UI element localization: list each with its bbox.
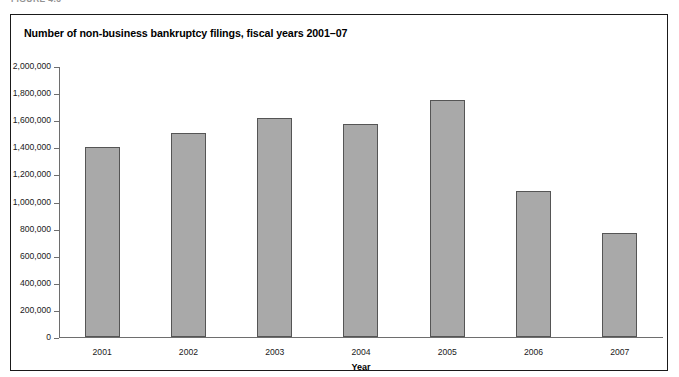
bar-slot — [145, 133, 231, 337]
plot-area: 0200,000400,000600,000800,0001,000,0001,… — [59, 67, 663, 338]
figure-frame: Number of non-business bankruptcy filing… — [10, 14, 668, 371]
y-axis-tick — [54, 121, 59, 122]
x-axis-line — [59, 337, 663, 338]
figure-label: FIGURE 4.3 — [11, 0, 61, 4]
y-axis-tick — [54, 67, 59, 68]
y-axis-tick-label: 1,200,000 — [6, 169, 51, 179]
x-axis-tick-label: 2002 — [145, 347, 231, 357]
y-axis-tick-label: 200,000 — [6, 305, 51, 315]
bar-2006 — [516, 191, 551, 337]
y-axis-tick-label: 400,000 — [6, 278, 51, 288]
bar-2001 — [85, 147, 120, 337]
bar-slot — [577, 233, 663, 337]
x-axis-title: Year — [59, 362, 663, 372]
x-axis-tick-label: 2005 — [404, 347, 490, 357]
bar-slot — [232, 118, 318, 337]
bar-slot — [404, 100, 490, 336]
bar-slot — [318, 124, 404, 337]
y-axis-tick-label: 1,400,000 — [6, 142, 51, 152]
bar-slot — [59, 147, 145, 337]
y-axis-tick-label: 600,000 — [6, 251, 51, 261]
bar-2004 — [343, 124, 378, 337]
y-axis-tick-label: 1,600,000 — [6, 115, 51, 125]
bar-slot — [490, 191, 576, 337]
x-axis-tick-label: 2003 — [232, 347, 318, 357]
y-axis-tick — [54, 338, 59, 339]
x-axis-tick-label: 2007 — [577, 347, 663, 357]
x-axis-tick-label: 2006 — [490, 347, 576, 357]
x-axis-tick-label: 2001 — [59, 347, 145, 357]
y-axis-tick-label: 1,000,000 — [6, 197, 51, 207]
y-axis-tick-label: 1,800,000 — [6, 88, 51, 98]
chart-title: Number of non-business bankruptcy filing… — [24, 27, 347, 39]
y-axis-tick-label: 800,000 — [6, 224, 51, 234]
y-axis-tick-label: 0 — [6, 332, 51, 342]
x-axis-tick-label: 2004 — [318, 347, 404, 357]
bar-2007 — [602, 233, 637, 337]
bar-2002 — [171, 133, 206, 337]
bar-2003 — [257, 118, 292, 337]
y-axis-tick — [54, 94, 59, 95]
y-axis-tick-label: 2,000,000 — [6, 61, 51, 71]
bar-2005 — [430, 100, 465, 336]
